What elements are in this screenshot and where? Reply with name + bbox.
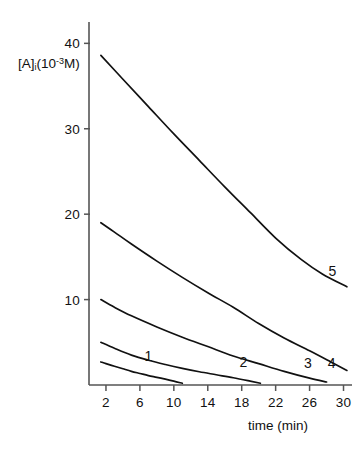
- x-tick-label: 2: [102, 395, 110, 410]
- y-tick-label: 20: [65, 207, 80, 222]
- y-axis-title-exponent: -3: [56, 56, 64, 66]
- x-tick-label: 10: [166, 395, 181, 410]
- y-axis-title-base: [A]: [18, 56, 35, 71]
- curve-label-5: 5: [329, 263, 337, 279]
- curve-3: [101, 300, 327, 382]
- data-curves: [101, 55, 347, 383]
- tick-marks: [84, 43, 344, 391]
- curve-label-2: 2: [240, 354, 248, 370]
- x-tick-label: 6: [136, 395, 144, 410]
- x-tick-label: 26: [302, 395, 317, 410]
- x-axis-title: time (min): [248, 418, 308, 433]
- x-tick-label: 14: [200, 395, 215, 410]
- curve-4: [101, 223, 347, 371]
- y-tick-label: 10: [65, 292, 80, 307]
- curve-label-1: 1: [144, 348, 152, 364]
- curve-label-4: 4: [328, 355, 336, 371]
- chart-figure: 10203040 26101418222630 12345 [A]i(10-3M…: [0, 0, 363, 449]
- x-tick-label: 22: [268, 395, 283, 410]
- y-tick-label: 30: [65, 121, 80, 136]
- curve-5: [101, 55, 347, 286]
- curve-label-3: 3: [304, 355, 312, 371]
- curve-2: [101, 342, 260, 383]
- y-axis-title-paren: (10: [37, 56, 57, 71]
- y-axis-title: [A]i(10-3M): [18, 56, 80, 72]
- x-tick-label: 18: [234, 395, 249, 410]
- y-axis-title-unit: M): [64, 56, 80, 71]
- x-tick-label: 30: [336, 395, 351, 410]
- axes: [89, 22, 352, 385]
- y-tick-label: 40: [65, 36, 80, 51]
